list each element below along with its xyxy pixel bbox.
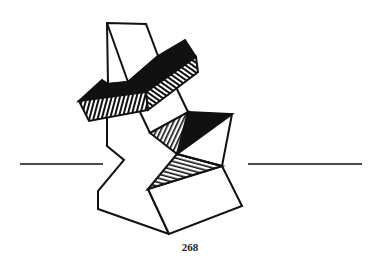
page-number: 268 <box>0 241 380 253</box>
geometric-sculpture-illustration <box>0 0 380 261</box>
